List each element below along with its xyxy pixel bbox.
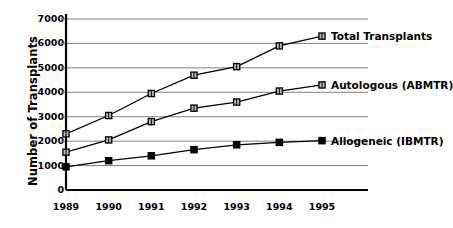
data-point: [276, 139, 282, 145]
data-point: [63, 164, 69, 170]
series-line: [66, 141, 322, 167]
series-label: Autologous (ABMTR): [331, 79, 453, 91]
data-point: [234, 142, 240, 148]
series-label: Allogeneic (IBMTR): [331, 135, 443, 147]
x-tick-label-1991: 1991: [129, 201, 173, 212]
x-tick-label-1994: 1994: [257, 201, 301, 212]
data-point: [319, 138, 325, 144]
x-tick-label-1989: 1989: [44, 201, 88, 212]
data-point: [148, 153, 154, 159]
data-point: [106, 158, 112, 164]
data-point: [191, 147, 197, 153]
x-tick-label-1990: 1990: [87, 201, 131, 212]
x-tick-label-1995: 1995: [300, 201, 344, 212]
x-tick-label-1992: 1992: [172, 201, 216, 212]
series-label: Total Transplants: [331, 30, 432, 42]
series-0: [63, 33, 325, 137]
x-tick-label-1993: 1993: [215, 201, 259, 212]
series-line: [66, 36, 322, 134]
